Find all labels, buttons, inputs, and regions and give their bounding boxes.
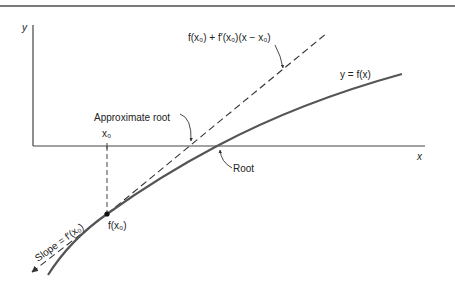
tangent-label-leader bbox=[275, 45, 283, 68]
point-f-x0 bbox=[104, 211, 109, 216]
x-axis-label: x bbox=[416, 151, 423, 162]
approximate-root-leader bbox=[180, 114, 191, 141]
root-leader bbox=[220, 150, 232, 168]
tangent-line-label: f(x₀) + f′(x₀)(x − x₀) bbox=[188, 32, 271, 43]
root-label: Root bbox=[233, 163, 254, 174]
slope-label: Slope = f′(x₀) bbox=[33, 221, 86, 264]
approximate-root-label: Approximate root bbox=[94, 112, 170, 123]
newton-method-diagram: y x f(x₀) + f′(x₀)(x − x₀) y = f(x) Appr… bbox=[0, 0, 455, 296]
point-f-x0-label: f(x₀) bbox=[108, 220, 127, 231]
tangent-line bbox=[107, 33, 327, 214]
y-axis-label: y bbox=[21, 22, 28, 33]
curve-label: y = f(x) bbox=[340, 69, 371, 80]
x0-label: x₀ bbox=[102, 128, 111, 139]
function-curve bbox=[48, 74, 402, 275]
